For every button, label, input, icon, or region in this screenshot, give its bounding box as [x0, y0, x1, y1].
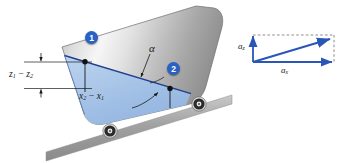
ax-label: ax [281, 66, 288, 76]
front-wheel [192, 97, 206, 111]
figure-canvas: 1 2 α z1−z2 x2−x1 az ax [0, 0, 343, 163]
dimension-label-x: x2−x1 [79, 92, 104, 102]
ax-sub: x [286, 69, 289, 75]
rear-wheel [103, 124, 117, 138]
state-marker-1: 1 [85, 31, 98, 44]
az-sub: z [243, 45, 245, 51]
figure-vector-graphics [0, 0, 343, 163]
angle-alpha-label: α [149, 43, 155, 54]
z-minus-op: − [16, 69, 26, 79]
x1-sub: 1 [101, 95, 104, 101]
dimension-label-z: z1−z2 [9, 70, 33, 80]
az-label: az [238, 42, 245, 52]
z2-sub: 2 [30, 73, 33, 79]
x-minus-op: − [86, 91, 96, 101]
acceleration-vector-diagram [253, 35, 334, 63]
resultant-acceleration-vector [253, 39, 330, 62]
state-marker-2: 2 [167, 62, 180, 75]
